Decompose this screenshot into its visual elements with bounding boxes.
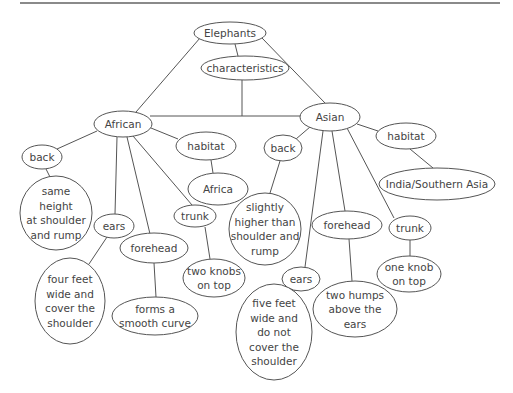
node-label: on top xyxy=(392,275,426,287)
node-ellipse xyxy=(35,258,105,344)
node-label: back xyxy=(30,151,56,163)
node-african-back: back xyxy=(22,145,62,169)
node-asian-habitat: habitat xyxy=(376,123,436,149)
node-asian-forehead-desc: two humpsabove theears xyxy=(313,281,397,337)
node-african-ears: ears xyxy=(94,214,134,238)
node-label: ears xyxy=(344,318,367,330)
edge-elephants-to-african xyxy=(136,38,200,112)
node-african-habitat: habitat xyxy=(176,132,236,160)
edge-asian-to-asian-ears xyxy=(305,131,323,267)
nodes: ElephantscharacteristicsAfricanAsianback… xyxy=(20,22,495,380)
node-african-forehead-desc: forms asmooth curve xyxy=(112,297,198,335)
node-asian-back: back xyxy=(264,135,302,161)
node-label: African xyxy=(105,118,142,130)
node-india: India/Southern Asia xyxy=(379,168,495,200)
node-characteristics: characteristics xyxy=(201,56,289,80)
edge-african-back-to-african-back-desc xyxy=(46,169,50,177)
edge-asian-forehead-to-asian-forehead-desc xyxy=(349,239,352,281)
node-label: slightly xyxy=(246,201,284,213)
edge-african-to-african-back xyxy=(57,131,97,149)
node-label: above the xyxy=(329,303,382,315)
edge-african-to-african-habitat xyxy=(151,128,178,139)
edge-african-habitat-to-africa xyxy=(211,160,213,173)
node-label: Africa xyxy=(203,183,233,195)
node-label: shoulder xyxy=(251,355,297,367)
node-label: habitat xyxy=(387,130,424,142)
node-asian-ears-desc: five feetwide anddo notcover theshoulder xyxy=(236,284,312,380)
node-label: back xyxy=(271,142,297,154)
node-label: shoulder xyxy=(47,317,93,329)
node-african-ears-desc: four feetwide andcover theshoulder xyxy=(35,258,105,344)
node-label: higher than xyxy=(235,216,296,228)
node-label: on top xyxy=(197,279,231,291)
node-label: trunk xyxy=(181,210,210,222)
node-label: ears xyxy=(290,273,313,285)
edge-asian-to-asian-habitat xyxy=(357,124,378,131)
node-label: at shoulder xyxy=(26,214,86,226)
node-african-trunk: trunk xyxy=(174,205,216,227)
edge-african-trunk-to-african-trunk-desc xyxy=(205,227,210,259)
node-label: cover the xyxy=(249,341,299,353)
node-asian: Asian xyxy=(300,103,360,131)
edge-elephants-to-characteristics xyxy=(235,44,238,56)
edge-asian-to-asian-forehead xyxy=(332,131,345,211)
node-label: Asian xyxy=(316,111,345,123)
node-label: Elephants xyxy=(204,27,256,39)
node-label: forehead xyxy=(324,219,371,231)
node-label: height xyxy=(39,200,72,212)
concept-map: ElephantscharacteristicsAfricanAsianback… xyxy=(0,0,513,393)
node-asian-trunk: trunk xyxy=(389,216,431,240)
edge-african-to-african-ears xyxy=(115,137,117,214)
edge-asian-back-to-asian-back-desc xyxy=(270,161,280,193)
node-asian-back-desc: slightlyhigher thanshoulder andrump xyxy=(229,193,301,265)
node-label: cover the xyxy=(45,302,95,314)
node-label: and rump xyxy=(31,229,82,241)
node-label: two humps xyxy=(326,289,384,301)
node-africa: Africa xyxy=(188,173,248,205)
node-label: rump xyxy=(251,245,279,257)
node-label: four feet xyxy=(47,273,92,285)
edge-asian-habitat-to-india xyxy=(410,149,433,168)
node-label: forms a xyxy=(135,303,175,315)
node-asian-forehead: forehead xyxy=(312,211,382,239)
node-asian-trunk-desc: one knobon top xyxy=(377,256,441,292)
node-label: shoulder and xyxy=(231,230,300,242)
node-african-trunk-desc: two knobson top xyxy=(183,259,245,297)
node-label: do not xyxy=(257,326,291,338)
node-label: wide and xyxy=(46,288,94,300)
node-label: two knobs xyxy=(187,265,241,277)
edge-asian-to-asian-back xyxy=(296,127,310,139)
node-african-forehead: forehead xyxy=(120,233,188,263)
node-label: forehead xyxy=(131,242,178,254)
node-label: characteristics xyxy=(207,62,284,74)
edge-african-forehead-to-african-forehead-desc xyxy=(154,263,156,297)
node-label: one knob xyxy=(385,261,434,273)
node-label: same xyxy=(42,185,71,197)
node-label: five feet xyxy=(252,297,295,309)
node-label: India/Southern Asia xyxy=(386,178,488,190)
node-label: ears xyxy=(103,220,126,232)
node-label: wide and xyxy=(250,312,298,324)
node-label: habitat xyxy=(187,140,224,152)
node-elephants: Elephants xyxy=(194,22,266,44)
node-african-back-desc: sameheightat shoulderand rump xyxy=(20,176,92,250)
node-label: trunk xyxy=(396,222,425,234)
edge-african-ears-to-african-ears-desc xyxy=(89,237,107,264)
node-label: smooth curve xyxy=(119,317,191,329)
node-african: African xyxy=(94,111,152,137)
